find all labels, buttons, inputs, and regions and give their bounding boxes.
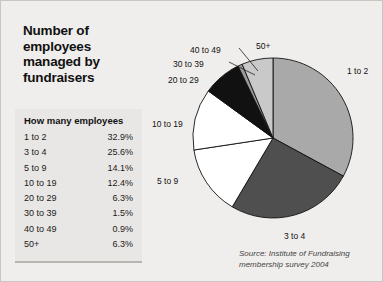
table-row: 10 to 19 12.4% [24, 176, 133, 191]
table-cell-label: 3 to 4 [24, 145, 47, 160]
pie-slice-group [193, 58, 353, 218]
table-row: 20 to 29 6.3% [24, 191, 133, 206]
table-cell-value: 12.4% [107, 176, 133, 191]
table-header-how-many-employees: How many employees [24, 115, 133, 126]
table-cell-value: 32.9% [107, 130, 133, 145]
source-note-line-1: Source: Institute of Fundraising [239, 249, 379, 260]
pie-label-30-to-39: 30 to 39 [173, 59, 204, 69]
source-note-line-2: membership survey 2004 [239, 260, 379, 271]
pie-label-20-to-29: 20 to 29 [168, 75, 199, 85]
table-cell-label: 50+ [24, 237, 39, 252]
table-cell-value: 1.5% [112, 206, 133, 221]
table-row: 5 to 9 14.1% [24, 161, 133, 176]
table-row: 40 to 49 0.9% [24, 222, 133, 237]
table-row: 1 to 2 32.9% [24, 130, 133, 145]
table-cell-value: 14.1% [107, 161, 133, 176]
pie-chart: 1 to 23 to 45 to 910 to 1920 to 2930 to … [151, 19, 383, 281]
table-cell-value: 0.9% [112, 222, 133, 237]
table-row: 30 to 39 1.5% [24, 206, 133, 221]
table-cell-value: 25.6% [107, 145, 133, 160]
table-cell-label: 20 to 29 [24, 191, 57, 206]
table-row: 50+ 6.3% [24, 237, 133, 252]
table-cell-label: 1 to 2 [24, 130, 47, 145]
source-note: Source: Institute of Fundraising members… [239, 249, 379, 270]
pie-label-50-: 50+ [256, 41, 270, 51]
table-cell-label: 5 to 9 [24, 161, 47, 176]
pie-label-5-to-9: 5 to 9 [157, 176, 178, 186]
table-row: 3 to 4 25.6% [24, 145, 133, 160]
table-cell-label: 10 to 19 [24, 176, 57, 191]
data-table: How many employees 1 to 2 32.9% 3 to 4 2… [15, 109, 142, 263]
chart-page: Number of employees managed by fundraise… [0, 0, 383, 282]
table-cell-value: 6.3% [112, 191, 133, 206]
pie-label-40-to-49: 40 to 49 [190, 45, 221, 55]
table-cell-label: 30 to 39 [24, 206, 57, 221]
table-cell-value: 6.3% [112, 237, 133, 252]
pie-label-1-to-2: 1 to 2 [347, 66, 368, 76]
pie-label-10-to-19: 10 to 19 [152, 119, 183, 129]
table-cell-label: 40 to 49 [24, 222, 57, 237]
pie-label-3-to-4: 3 to 4 [284, 231, 305, 241]
